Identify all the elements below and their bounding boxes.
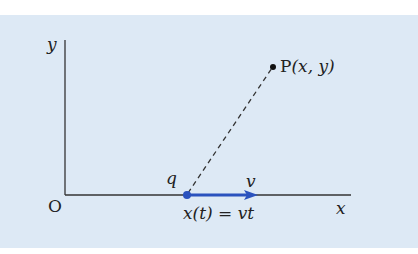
charge-q-label: q (166, 170, 177, 187)
distance-dashed-line (188, 68, 272, 193)
charge-q-dot (183, 191, 191, 199)
point-p-letter: P (280, 56, 291, 76)
y-axis-label: y (47, 36, 57, 53)
origin-label: O (48, 198, 62, 215)
position-equation: x(t) = vt (183, 205, 254, 222)
x-axis-label: x (336, 200, 346, 217)
point-p-dot (270, 64, 276, 70)
velocity-v-label: v (246, 173, 256, 190)
point-p-coords: (x, y) (291, 56, 334, 76)
point-p-label: P(x, y) (280, 58, 335, 75)
